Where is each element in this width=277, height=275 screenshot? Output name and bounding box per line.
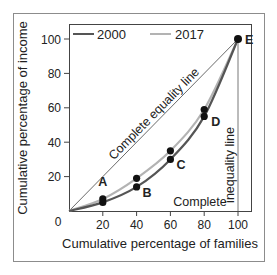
- point-label-C: C: [176, 158, 185, 172]
- point-D-2017: [201, 106, 208, 113]
- point-B-2017: [133, 175, 140, 182]
- x-tick-label: 20: [96, 218, 110, 232]
- point-A-2000: [99, 199, 106, 206]
- y-axis-label: Cumulative percentage of income: [15, 21, 30, 215]
- x-tick-label: 80: [198, 218, 212, 232]
- x-axis-label: Cumulative percentage of families: [62, 236, 258, 251]
- y-tick-label: 80: [48, 67, 62, 81]
- lorenz-curve-chart: 20406080100 20406080100 0 Cumulative per…: [0, 0, 277, 275]
- point-D-2000: [201, 113, 208, 120]
- legend-label-2017: 2017: [175, 27, 204, 42]
- origin-label: 0: [55, 215, 62, 229]
- x-tick-label: 100: [228, 218, 248, 232]
- point-label-E: E: [245, 33, 253, 47]
- point-E: [234, 35, 242, 43]
- x-tick-label: 40: [130, 218, 144, 232]
- point-B-2000: [133, 183, 140, 190]
- complete-label: Complete: [173, 195, 227, 209]
- point-C-2000: [167, 156, 174, 163]
- x-tick-label: 60: [164, 218, 178, 232]
- point-label-A: A: [98, 175, 107, 189]
- y-tick-label: 100: [41, 33, 61, 47]
- point-label-B: B: [143, 186, 152, 200]
- legend-label-2000: 2000: [97, 27, 126, 42]
- y-tick-label: 40: [48, 136, 62, 150]
- inequality-line-label: inequality line: [223, 127, 237, 203]
- y-tick-label: 20: [48, 170, 62, 184]
- point-label-D: D: [211, 115, 220, 129]
- y-tick-label: 60: [48, 101, 62, 115]
- point-C-2017: [167, 147, 174, 154]
